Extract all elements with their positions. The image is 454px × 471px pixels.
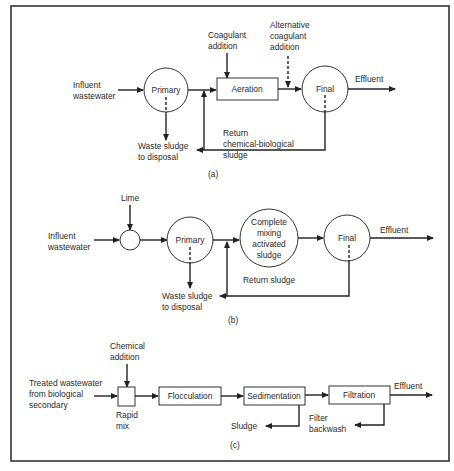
panel-a: Influent wastewater Primary Waste sludge… <box>72 20 395 179</box>
caption-a: (a) <box>208 169 218 179</box>
final-label-a: Final <box>316 84 334 94</box>
chemical-label-line1: Chemical <box>110 341 145 351</box>
alt-coagulant-label-line1: Alternative <box>270 20 310 30</box>
sludge-outflow-arrow <box>266 405 299 426</box>
waste-label-b-line2: to disposal <box>162 302 202 312</box>
panel-c: Chemical addition Treated wastewater fro… <box>29 341 432 450</box>
flocculation-label: Flocculation <box>168 391 213 401</box>
alt-coagulant-label-line2: coagulant <box>270 31 307 41</box>
coagulant-label-line1: Coagulant <box>208 30 247 40</box>
rapid-mix-box <box>118 387 135 406</box>
alt-coagulant-label-line3: addition <box>270 42 300 52</box>
influent-label-line2: wastewater <box>72 91 116 101</box>
return-label-a-line3: sludge <box>223 150 248 160</box>
rapid-mix-label-line1: Rapid <box>116 410 138 420</box>
panel-b: Lime Influent wastewater Primary Waste s… <box>47 193 433 325</box>
backwash-label-line1: Filter <box>309 413 328 423</box>
backwash-label-line2: backwash <box>309 424 347 434</box>
effluent-label-b: Effluent <box>380 225 409 235</box>
lime-label: Lime <box>121 193 139 203</box>
primary-label-a: Primary <box>152 85 182 95</box>
activated-label-line4: sludge <box>257 250 282 260</box>
lime-mix-node <box>120 230 140 250</box>
coagulant-label-line2: addition <box>208 41 238 51</box>
process-flow-diagram: Influent wastewater Primary Waste sludge… <box>0 0 454 471</box>
influent-label-b-line1: Influent <box>48 231 76 241</box>
treated-label-line2: from biological <box>29 389 83 399</box>
influent-label-b-line2: wastewater <box>47 242 91 252</box>
activated-label-line2: mixing <box>257 228 282 238</box>
aeration-label: Aeration <box>231 84 263 94</box>
waste-label-a-line1: Waste sludge <box>138 141 189 151</box>
effluent-label-c: Effluent <box>394 381 423 391</box>
return-label-a-line2: chemical-biological <box>223 139 294 149</box>
return-label-a-line1: Return <box>223 128 248 138</box>
sludge-label: Sludge <box>231 421 257 431</box>
activated-label-line3: activated <box>252 239 286 249</box>
sedimentation-label: Sedimentation <box>247 391 301 401</box>
caption-b: (b) <box>228 315 238 325</box>
primary-label-b: Primary <box>176 235 206 245</box>
final-label-b: Final <box>338 233 356 243</box>
effluent-label-a: Effluent <box>355 74 384 84</box>
return-label-b: Return sludge <box>243 275 295 285</box>
treated-label-line3: secondary <box>29 400 68 410</box>
waste-label-b-line1: Waste sludge <box>162 291 213 301</box>
waste-label-a-line2: to disposal <box>138 152 178 162</box>
filter-backwash-arrow <box>355 404 384 425</box>
rapid-mix-label-line2: mix <box>116 421 130 431</box>
influent-label-line1: Influent <box>73 80 101 90</box>
activated-label-line1: Complete <box>251 217 287 227</box>
caption-c: (c) <box>230 440 240 450</box>
treated-label-line1: Treated wastewater <box>29 378 102 388</box>
filtration-label: Filtration <box>343 390 375 400</box>
chemical-label-line2: addition <box>110 352 140 362</box>
